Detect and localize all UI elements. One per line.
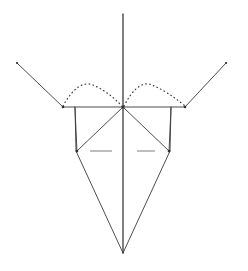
- left-spar-node-dot: [62, 106, 65, 109]
- line-drawing: [0, 0, 248, 271]
- right-wing-tip-dot: [225, 62, 227, 64]
- canvas-background: [0, 0, 248, 271]
- right-spar-node-dot: [184, 106, 187, 109]
- diagram-canvas: [0, 0, 248, 271]
- left-wing-tip-dot: [16, 62, 18, 64]
- center-spar-node-dot: [122, 106, 125, 109]
- right-node-dot: [168, 150, 171, 153]
- left-node-dot: [76, 150, 79, 153]
